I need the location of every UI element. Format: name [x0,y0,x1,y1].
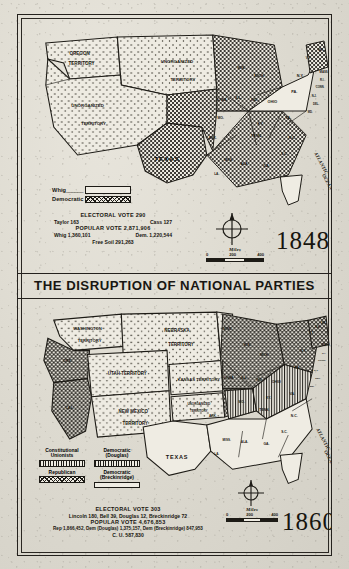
svg-text:TERRITORY: TERRITORY [170,77,195,82]
svg-text:OHIO: OHIO [272,380,281,384]
svg-text:ATLANTIC: ATLANTIC [313,150,330,175]
electoral-vote-heading-1848: ELECTORAL VOTE 290 [54,212,172,219]
legend-1860: Constitutional Unionists Democratic (Dou… [39,448,140,488]
scale-tick-0: 0 [206,252,208,257]
svg-text:VT.: VT. [306,56,311,60]
stats-1848: ELECTORAL VOTE 290 Taylor 163 Cass 127 P… [54,212,172,245]
popular-vote-heading-1860: POPULAR VOTE 4,676,853 [32,519,224,526]
svg-text:MO.: MO. [218,116,224,120]
svg-text:ORE.: ORE. [63,359,72,363]
svg-text:LA.: LA. [214,452,219,456]
svg-text:N.J.: N.J. [312,94,317,98]
svg-text:DEL.: DEL. [313,102,319,106]
scale-tick-400-1860: 400 [271,512,278,517]
svg-text:VA.: VA. [285,116,291,120]
popular-dem: Dem. 1,220,544 [135,232,172,238]
scale-bar-graphic-1860 [226,518,278,522]
svg-text:CONN.: CONN. [318,359,326,362]
popular-whig: Whig 1,360,101 [54,232,91,238]
svg-text:R.I.: R.I. [320,78,324,82]
svg-text:NEW MEXICO: NEW MEXICO [119,409,149,414]
svg-text:ILL.: ILL. [241,376,247,380]
svg-text:N.Y.: N.Y. [300,349,306,353]
legend-label-democratic-douglas: Democratic (Douglas) [94,448,140,459]
year-label-1860: 1860 [282,508,331,536]
svg-text:IOWA: IOWA [224,376,234,380]
svg-text:ME.: ME. [318,48,324,52]
svg-text:PA.: PA. [295,366,300,370]
popular-free-soil: Free Soil 291,263 [54,239,172,245]
svg-text:MASS.: MASS. [320,70,329,74]
svg-text:ARK.: ARK. [209,414,217,418]
svg-text:NEBRASKA: NEBRASKA [164,328,190,333]
svg-text:TERRITORY: TERRITORY [190,409,209,413]
svg-text:GA.: GA. [263,164,269,168]
svg-text:N.H.: N.H. [315,325,321,329]
svg-text:TEXAS: TEXAS [166,454,188,460]
svg-text:S.C.: S.C. [281,430,287,434]
svg-text:MO.: MO. [239,400,245,404]
svg-text:OCEAN: OCEAN [323,449,331,467]
electoral-vote-heading-1860: ELECTORAL VOTE 303 [32,506,224,513]
svg-text:WASHINGTON: WASHINGTON [73,326,102,331]
legend-swatch-democratic [85,196,131,204]
legend-label-democratic: Democratic [52,196,83,202]
legend-item-whig: Whig ______ [52,186,152,194]
svg-text:N.Y.: N.Y. [297,74,304,78]
svg-text:MISS.: MISS. [223,438,231,442]
svg-text:KANSAS TERRITORY: KANSAS TERRITORY [178,377,221,382]
svg-text:TERRITORY: TERRITORY [168,342,194,347]
legend-swatch-democratic-breckinridge [94,482,140,489]
svg-text:ALA.: ALA. [241,440,248,444]
map-panel-1860: WASHINGTON TERRITORY NEBRASKA TERRITORY … [18,298,331,555]
svg-text:TENN.: TENN. [251,134,262,138]
svg-text:IOWA: IOWA [217,98,227,102]
svg-text:CONN.: CONN. [316,85,325,89]
scale-tick-400: 400 [257,252,264,257]
legend-label-constitutional-unionists: Constitutional Unionists [39,448,85,459]
svg-text:MICH.: MICH. [260,353,269,357]
stats-1860: ELECTORAL VOTE 303 Lincoln 180, Bell 39,… [32,506,224,538]
svg-text:MD.: MD. [308,110,313,114]
svg-text:ILL.: ILL. [235,96,242,100]
legend-item-republican: Republican [39,470,85,489]
legend-1848: Whig ______ Democratic [52,186,152,205]
svg-text:WIS.: WIS. [237,66,245,70]
map-panel-1848: OREGON TERRITORY UNORGANIZED TERRITORY U… [18,15,331,273]
svg-text:ARK.: ARK. [209,136,217,140]
svg-text:DEL.: DEL. [315,377,321,380]
scale-ticks-1848: 0 200 400 [206,252,264,257]
svg-text:KY.: KY. [258,122,263,126]
svg-text:N.C.: N.C. [291,414,298,418]
title-banner: THE DISRUPTION OF NATIONAL PARTIES [18,273,331,298]
svg-text:S.C.: S.C. [281,152,288,156]
svg-text:PA.: PA. [291,90,297,94]
legend-label-democratic-breckinridge: Democratic (Breckinridge) [94,470,140,481]
legend-swatch-republican [39,476,85,483]
svg-text:TERRITORY: TERRITORY [69,61,95,66]
svg-text:MASS.: MASS. [322,343,330,347]
svg-text:TEXAS: TEXAS [154,155,179,162]
popular-constitutional-union-1860: C. U. 587,830 [32,532,224,538]
scale-bar-1848: Miles 0 200 400 [206,247,264,262]
svg-text:ALA.: ALA. [241,162,249,166]
svg-text:GA.: GA. [263,442,269,446]
scale-bar-graphic-1848 [206,258,264,262]
scale-tick-200: 200 [229,252,236,257]
banner-title: THE DISRUPTION OF NATIONAL PARTIES [34,278,315,293]
legend-item-democratic-douglas: Democratic (Douglas) [94,448,140,467]
svg-text:VA.: VA. [290,392,295,396]
scale-bar-1860: Miles 0 200 400 [226,507,278,522]
electoral-cass: Cass 127 [150,219,172,225]
svg-text:MINN.: MINN. [223,327,232,331]
svg-text:TERRITORY: TERRITORY [78,338,102,343]
legend-item-democratic: Democratic [52,196,152,204]
svg-text:OREGON: OREGON [69,51,89,56]
scale-tick-200-1860: 200 [246,512,253,517]
svg-text:UTAH TERRITORY: UTAH TERRITORY [108,371,147,376]
map-page: OREGON TERRITORY UNORGANIZED TERRITORY U… [0,0,349,569]
svg-text:LA.: LA. [214,172,219,176]
svg-text:MICH.: MICH. [254,74,264,78]
legend-leader-whig: ______ [66,187,83,193]
legend-swatch-constitutional-unionists [39,460,85,467]
